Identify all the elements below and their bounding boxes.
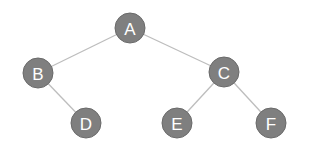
node-e: E [162,108,192,138]
edge-a-c [130,28,224,72]
node-a: A [115,13,145,43]
node-d-label: D [80,115,92,134]
node-c: C [209,57,239,87]
nodes: A B C D E F [23,13,286,138]
node-a-label: A [124,20,136,39]
tree-svg: A B C D E F [0,0,331,149]
tree-diagram: A B C D E F [0,0,331,149]
node-b-label: B [32,65,43,84]
node-b: B [23,58,53,88]
node-f-label: F [266,115,276,134]
node-c-label: C [218,64,230,83]
node-f: F [256,108,286,138]
node-e-label: E [171,115,182,134]
node-d: D [71,108,101,138]
